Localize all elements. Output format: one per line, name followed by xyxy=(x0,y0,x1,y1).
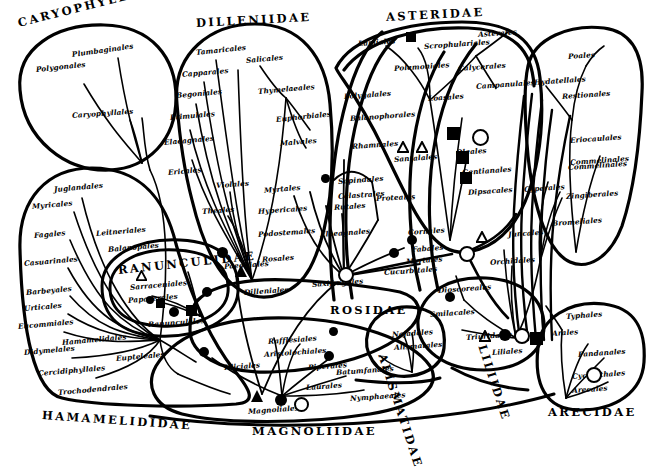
filled-circle-marker xyxy=(321,174,330,183)
filled-circle-marker xyxy=(324,351,334,361)
open-triangle-marker xyxy=(476,229,488,241)
subclass-label: ROSIDAE xyxy=(330,303,408,317)
branch xyxy=(274,338,282,396)
filled-square-marker xyxy=(456,151,469,164)
filled-circle-marker xyxy=(169,307,179,317)
filled-circle-marker xyxy=(275,394,287,406)
filled-circle-marker xyxy=(199,347,209,357)
open-triangle-marker xyxy=(416,139,428,151)
order-label: Poales xyxy=(568,50,596,61)
filled-circle-marker xyxy=(217,247,228,258)
branch xyxy=(178,374,230,394)
open-circle-marker xyxy=(459,246,475,262)
open-triangle-marker xyxy=(397,139,409,151)
monocot-trunk xyxy=(551,116,570,340)
open-circle-marker xyxy=(514,328,530,344)
filled-circle-marker xyxy=(499,329,511,341)
branch xyxy=(546,306,562,330)
filled-circle-marker xyxy=(407,235,417,245)
filled-triangle-marker xyxy=(235,265,247,277)
filled-square-marker xyxy=(530,332,543,345)
open-circle-marker xyxy=(586,367,602,383)
open-circle-marker xyxy=(294,397,309,412)
filled-square-marker xyxy=(186,305,197,316)
filled-square-marker xyxy=(406,32,416,42)
open-circle-marker xyxy=(338,267,354,283)
subclass-label: ARECIDAE xyxy=(548,405,637,419)
branch xyxy=(412,334,414,372)
open-triangle-marker xyxy=(479,328,491,340)
branch xyxy=(84,84,142,163)
open-circle-marker xyxy=(472,129,489,146)
open-triangle-marker xyxy=(136,267,147,278)
filled-circle-marker xyxy=(389,248,399,258)
asteridae-bubble xyxy=(336,22,542,252)
subclass-label: MAGNOLIIDAE xyxy=(252,424,377,438)
filled-square-marker xyxy=(447,127,460,140)
order-label: Arales xyxy=(552,327,579,338)
filled-triangle-marker xyxy=(251,390,263,402)
filled-circle-marker xyxy=(445,292,455,302)
filled-circle-marker xyxy=(329,327,338,336)
branch xyxy=(386,46,430,100)
filled-square-marker xyxy=(460,172,472,184)
filled-circle-marker xyxy=(202,287,212,297)
filled-square-marker xyxy=(156,299,165,308)
branch xyxy=(561,330,566,398)
filled-circle-marker xyxy=(146,296,154,304)
